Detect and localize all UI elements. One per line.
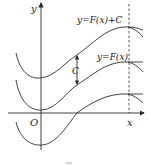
y-axis-label: y xyxy=(30,3,37,14)
origin-label: O xyxy=(30,117,38,128)
curve-base-branch xyxy=(128,62,143,72)
shift-constant-label: C xyxy=(72,66,79,76)
curve-lower-branch xyxy=(128,94,143,103)
curve-shifted-branch xyxy=(128,27,143,37)
antiderivative-family-diagram: y x O y=F(x)+C y=F(x) C xyxy=(0,0,151,165)
x-axis-label: x xyxy=(127,117,133,128)
curve-base xyxy=(16,62,143,110)
shifted-curve-label: y=F(x)+C xyxy=(76,15,123,25)
base-curve-label: y=F(x) xyxy=(96,52,128,62)
